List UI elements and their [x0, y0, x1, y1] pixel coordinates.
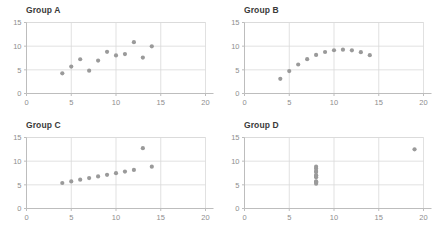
plot-area: 05101520051015	[218, 0, 436, 115]
plot-area: 05101520051015	[218, 115, 436, 230]
plot-area: 05101520051015	[0, 115, 218, 230]
data-point	[96, 59, 100, 63]
data-point	[412, 147, 416, 151]
x-tick-label: 10	[330, 98, 338, 107]
y-tick-label: 5	[235, 181, 239, 190]
data-point	[132, 40, 136, 44]
data-point	[105, 50, 109, 54]
data-point	[278, 77, 282, 81]
y-tick-label: 5	[17, 66, 21, 75]
x-tick-label: 0	[24, 213, 28, 222]
y-tick-label: 0	[235, 89, 239, 98]
y-tick-label: 10	[231, 42, 239, 51]
data-point	[105, 173, 109, 177]
data-point	[69, 65, 73, 69]
x-tick-label: 5	[287, 98, 291, 107]
y-tick-label: 0	[17, 204, 21, 213]
y-tick-label: 0	[235, 204, 239, 213]
data-point	[150, 44, 154, 48]
scatter-plot-grid: Group A05101520051015Group B051015200510…	[0, 0, 436, 230]
data-point	[87, 69, 91, 73]
scatter-panel: Group B05101520051015	[218, 0, 436, 115]
x-tick-label: 10	[112, 213, 120, 222]
data-point	[114, 53, 118, 57]
x-tick-label: 0	[242, 98, 246, 107]
x-tick-label: 5	[69, 98, 73, 107]
data-point	[314, 53, 318, 57]
x-tick-label: 0	[24, 98, 28, 107]
x-tick-label: 20	[419, 98, 427, 107]
data-point	[314, 169, 318, 173]
scatter-panel: Group D05101520051015	[218, 115, 436, 230]
y-tick-label: 0	[17, 89, 21, 98]
data-point	[305, 57, 309, 61]
data-point	[78, 178, 82, 182]
data-point	[123, 52, 127, 56]
scatter-panel: Group A05101520051015	[0, 0, 218, 115]
y-tick-label: 10	[231, 157, 239, 166]
y-tick-label: 15	[13, 133, 21, 142]
x-tick-label: 15	[157, 98, 165, 107]
x-tick-label: 10	[330, 213, 338, 222]
data-point	[287, 69, 291, 73]
y-tick-label: 5	[235, 66, 239, 75]
x-tick-label: 15	[375, 98, 383, 107]
x-tick-label: 15	[157, 213, 165, 222]
y-tick-label: 5	[17, 181, 21, 190]
data-point	[141, 146, 145, 150]
data-point	[341, 48, 345, 52]
data-point	[314, 174, 318, 178]
data-point	[123, 169, 127, 173]
data-point	[78, 57, 82, 61]
data-point	[323, 50, 327, 54]
data-point	[296, 62, 300, 66]
data-point	[359, 50, 363, 54]
x-tick-label: 20	[201, 213, 209, 222]
data-point	[350, 48, 354, 52]
data-point	[114, 171, 118, 175]
x-tick-label: 5	[287, 213, 291, 222]
y-tick-label: 10	[13, 157, 21, 166]
data-point	[69, 179, 73, 183]
data-point	[150, 165, 154, 169]
plot-area: 05101520051015	[0, 0, 218, 115]
data-point	[60, 181, 64, 185]
y-tick-label: 15	[231, 18, 239, 27]
x-tick-label: 0	[242, 213, 246, 222]
y-tick-label: 15	[231, 133, 239, 142]
x-tick-label: 10	[112, 98, 120, 107]
x-tick-label: 15	[375, 213, 383, 222]
y-tick-label: 10	[13, 42, 21, 51]
data-point	[132, 168, 136, 172]
x-tick-label: 20	[201, 98, 209, 107]
data-point	[332, 48, 336, 52]
data-point	[141, 56, 145, 60]
data-point	[96, 174, 100, 178]
y-tick-label: 15	[13, 18, 21, 27]
x-tick-label: 20	[419, 213, 427, 222]
x-tick-label: 5	[69, 213, 73, 222]
data-point	[87, 176, 91, 180]
data-point	[60, 71, 64, 75]
scatter-panel: Group C05101520051015	[0, 115, 218, 230]
data-point	[368, 53, 372, 57]
data-point	[314, 180, 318, 184]
